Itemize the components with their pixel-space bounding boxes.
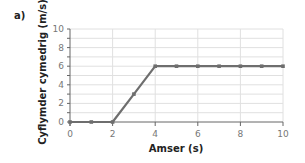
- svg-text:8: 8: [58, 43, 64, 53]
- svg-text:8: 8: [238, 129, 244, 139]
- svg-text:4: 4: [58, 80, 64, 90]
- svg-text:10: 10: [277, 129, 289, 139]
- svg-text:2: 2: [110, 129, 116, 139]
- svg-text:6: 6: [58, 61, 64, 71]
- line-chart: 02468100246810: [0, 0, 305, 163]
- svg-text:10: 10: [53, 24, 65, 34]
- axes: [67, 29, 283, 126]
- svg-text:2: 2: [58, 98, 64, 108]
- svg-text:0: 0: [58, 117, 64, 127]
- svg-text:4: 4: [152, 129, 158, 139]
- svg-text:6: 6: [195, 129, 201, 139]
- grid-lines: [70, 29, 283, 122]
- svg-text:0: 0: [67, 129, 73, 139]
